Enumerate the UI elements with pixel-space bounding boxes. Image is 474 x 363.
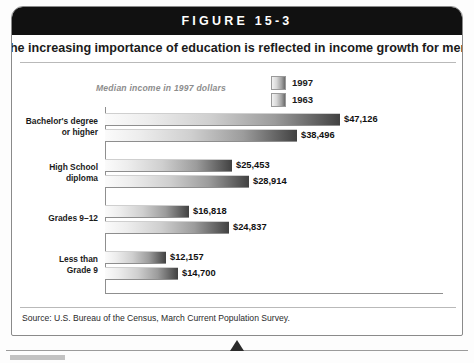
bar-value-label: $24,837 [233, 222, 267, 232]
category-label: Bachelor's degreeor higher [26, 116, 98, 137]
bar-1997 [105, 159, 232, 172]
bar-1997 [105, 251, 166, 264]
source-note: Source: U.S. Bureau of the Census, March… [22, 313, 290, 323]
category-label-line: or higher [26, 127, 98, 138]
category-label-line: Grades 9–12 [48, 213, 98, 224]
bar-value-label: $25,453 [236, 160, 270, 170]
chart-plot-area: Bachelor's degreeor higher$47,126$38,496… [12, 7, 463, 336]
bar-value-label: $28,914 [253, 176, 287, 186]
category-label: Grades 9–12 [48, 213, 98, 224]
x-axis-line [105, 293, 443, 294]
category-label-line: Bachelor's degree [26, 116, 98, 127]
bar-value-label: $38,496 [301, 130, 335, 140]
bar-1997 [105, 205, 189, 218]
bar-value-label: $16,818 [193, 206, 227, 216]
figure-container: FIGURE 15-3 The increasing importance of… [11, 6, 463, 336]
source-divider [20, 307, 456, 308]
bar-1963 [105, 267, 178, 280]
bar-1963 [105, 175, 249, 188]
bar-1963 [105, 129, 297, 142]
category-label-line: Less than [59, 254, 98, 265]
page-marker-triangle-icon [230, 340, 244, 351]
category-label-line: High School [49, 162, 98, 173]
bar-1963 [105, 221, 229, 234]
figure-page: FIGURE 15-3 The increasing importance of… [0, 0, 474, 363]
bar-value-label: $12,157 [170, 252, 204, 262]
page-thumb-tab [10, 355, 65, 360]
bar-1997 [105, 113, 340, 126]
category-label-line: diploma [49, 173, 98, 184]
bar-value-label: $14,700 [182, 268, 216, 278]
category-label: Less thanGrade 9 [59, 254, 98, 275]
bar-value-label: $47,126 [344, 114, 378, 124]
category-label: High Schooldiploma [49, 162, 98, 183]
category-label-line: Grade 9 [59, 265, 98, 276]
